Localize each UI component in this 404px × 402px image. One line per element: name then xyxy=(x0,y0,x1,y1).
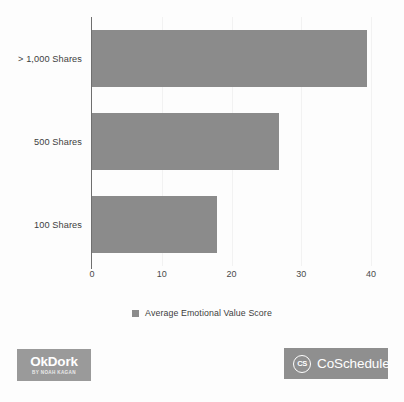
footer-logos: OkDork BY NOAH KAGAN CS CoSchedule xyxy=(0,346,404,394)
x-tick-label: 30 xyxy=(296,269,306,279)
category-axis-labels: > 1,000 Shares500 Shares100 Shares xyxy=(0,17,82,266)
coschedule-logo: CS CoSchedule xyxy=(284,348,388,379)
plot-area xyxy=(92,17,371,266)
legend-label: Average Emotional Value Score xyxy=(145,308,272,318)
coschedule-wordmark: CoSchedule xyxy=(317,356,388,371)
x-axis-tick-labels: 010203040 xyxy=(0,269,404,285)
y-axis-line xyxy=(91,17,92,269)
chart-page: > 1,000 Shares500 Shares100 Shares 01020… xyxy=(0,0,404,402)
gridline xyxy=(371,17,372,266)
bar-chart: > 1,000 Shares500 Shares100 Shares 01020… xyxy=(0,0,404,290)
okdork-tagline: BY NOAH KAGAN xyxy=(32,369,76,376)
category-label: > 1,000 Shares xyxy=(18,54,82,64)
bar[interactable] xyxy=(92,196,217,253)
okdork-logo: OkDork BY NOAH KAGAN xyxy=(17,349,91,381)
x-tick-label: 40 xyxy=(366,269,376,279)
category-label: 100 Shares xyxy=(34,220,82,230)
x-tick-label: 20 xyxy=(226,269,236,279)
okdork-wordmark: OkDork xyxy=(30,355,78,368)
chart-legend: Average Emotional Value Score xyxy=(0,308,404,318)
coschedule-circle-icon: CS xyxy=(293,355,311,373)
category-label: 500 Shares xyxy=(34,137,82,147)
x-tick-label: 0 xyxy=(89,269,94,279)
coschedule-mark-initials: CS xyxy=(297,360,307,368)
bar[interactable] xyxy=(92,113,279,170)
legend-color-swatch xyxy=(132,310,139,317)
bar[interactable] xyxy=(92,30,367,87)
x-tick-label: 10 xyxy=(157,269,167,279)
